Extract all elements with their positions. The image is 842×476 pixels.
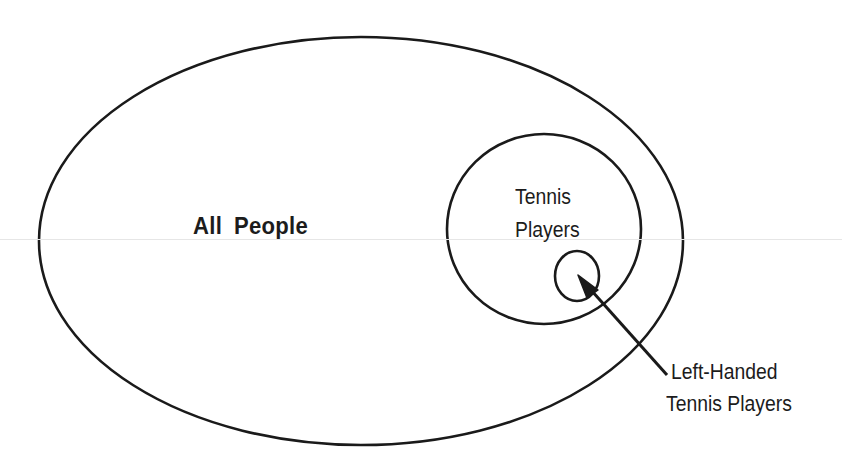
tennis-players-label-line2: Players [515,219,580,241]
scan-artifact-line [0,239,842,240]
left-handed-label-line2: Tennis Players [666,393,792,415]
all-people-ellipse [39,37,683,445]
all-people-label: All People [193,214,308,238]
arrow-shaft [591,290,667,375]
tennis-players-label-line1: Tennis [515,186,571,208]
left-handed-label-line1: Left-Handed [671,361,778,383]
